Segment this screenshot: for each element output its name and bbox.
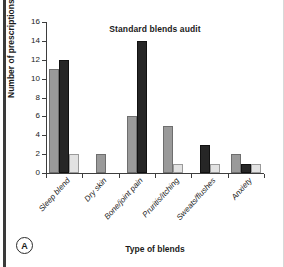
bar [231, 154, 241, 173]
x-axis-category-label: Dry skin [82, 176, 108, 203]
bar [59, 60, 69, 173]
x-axis-tick [82, 174, 83, 178]
y-axis-tick-label: 10 [31, 75, 40, 83]
bar-group [96, 22, 106, 173]
x-axis-category-label-anchor: Sweats/flushes [210, 176, 211, 177]
bar-group [49, 22, 79, 173]
bar [210, 164, 220, 173]
x-axis-category-label-anchor: Bone/joint pain [137, 176, 138, 177]
y-axis-tick [42, 135, 46, 136]
y-axis-tick-label: 14 [31, 37, 40, 45]
y-axis-tick-label: 0 [36, 169, 40, 177]
x-axis-category-label-anchor: Pruritis/itching [173, 176, 174, 177]
bar [241, 164, 251, 173]
y-axis-tick-label: 6 [36, 112, 40, 120]
x-axis-category-label-anchor: Sleep blend [64, 176, 65, 177]
x-axis-category-label: Bone/joint pain [102, 176, 144, 221]
x-axis-tick [46, 174, 47, 178]
y-axis-tick-label: 4 [36, 131, 40, 139]
bar [69, 154, 79, 173]
x-axis-category-label: Sleep blend [37, 176, 72, 213]
bar-group [200, 22, 220, 173]
y-axis-tick [42, 60, 46, 61]
y-axis-tick [42, 116, 46, 117]
y-axis-tick [42, 154, 46, 155]
bar [200, 145, 210, 173]
x-axis-tick [264, 174, 265, 178]
panel-right-rule [283, 0, 284, 267]
bar [163, 126, 173, 173]
y-axis-label: Number of prescriptions [6, 0, 16, 98]
x-axis-category-label: Sweats/flushes [174, 176, 217, 222]
x-axis-category-label: Anxiety [229, 176, 253, 202]
plot-area: 0246810121416 [46, 22, 264, 174]
y-axis-tick [42, 41, 46, 42]
bar-group [127, 22, 147, 173]
y-axis-tick [42, 79, 46, 80]
bar-group [163, 22, 183, 173]
x-axis-tick [191, 174, 192, 178]
bar [251, 164, 261, 173]
x-axis-category-label-anchor: Dry skin [101, 176, 102, 177]
y-axis-tick-label: 16 [31, 18, 40, 26]
x-axis-tick [119, 174, 120, 178]
y-axis-tick [42, 98, 46, 99]
y-axis-tick-label: 12 [31, 56, 40, 64]
x-axis-category-label-anchor: Anxiety [246, 176, 247, 177]
y-axis-line [46, 22, 47, 174]
bar-group [231, 22, 261, 173]
figure-panel: Standard blends audit Number of prescrip… [0, 0, 284, 267]
x-axis-category-label: Pruritis/itching [141, 176, 181, 219]
x-axis-label: Type of blends [46, 244, 264, 254]
bar [127, 116, 137, 173]
y-axis-tick-label: 8 [36, 94, 40, 102]
panel-letter: A [16, 237, 33, 254]
bar [137, 41, 147, 173]
bar [49, 69, 59, 173]
bar [96, 154, 106, 173]
y-axis-tick [42, 22, 46, 23]
bar [173, 164, 183, 173]
y-axis-tick-label: 2 [36, 150, 40, 158]
x-axis-tick [155, 174, 156, 178]
x-axis-tick [228, 174, 229, 178]
